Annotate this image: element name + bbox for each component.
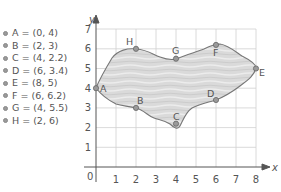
x-tick-labels: 1 2 3 4 5 6 7 8 xyxy=(113,174,259,185)
label-a: A xyxy=(100,83,107,94)
svg-text:3: 3 xyxy=(153,174,159,185)
svg-text:6: 6 xyxy=(85,43,91,54)
svg-text:4: 4 xyxy=(85,83,91,94)
label-f: F xyxy=(213,47,218,58)
y-tick-labels: 1 2 3 4 5 6 7 xyxy=(85,24,91,153)
label-d: D xyxy=(207,88,214,99)
point-h xyxy=(133,46,138,51)
label-g: G xyxy=(172,45,179,56)
svg-text:3: 3 xyxy=(85,102,91,113)
svg-text:7: 7 xyxy=(85,24,91,35)
x-axis-arrow-icon xyxy=(262,164,270,170)
label-e: E xyxy=(259,67,265,78)
svg-text:2: 2 xyxy=(133,174,139,185)
svg-text:7: 7 xyxy=(233,174,239,185)
label-h: H xyxy=(126,36,133,47)
svg-text:5: 5 xyxy=(193,174,199,185)
svg-text:6: 6 xyxy=(213,174,219,185)
point-a xyxy=(93,86,98,91)
label-b: B xyxy=(137,95,144,106)
point-g xyxy=(173,56,178,61)
origin-label: 0 xyxy=(87,171,93,182)
svg-text:4: 4 xyxy=(173,174,179,185)
svg-text:2: 2 xyxy=(85,122,91,133)
svg-text:8: 8 xyxy=(253,174,259,185)
svg-text:5: 5 xyxy=(85,63,91,74)
svg-text:1: 1 xyxy=(85,142,91,153)
svg-text:1: 1 xyxy=(113,174,119,185)
point-e xyxy=(253,66,258,71)
label-c: C xyxy=(173,111,180,122)
point-b xyxy=(133,105,138,110)
coordinate-plot: y x 0 1 2 3 4 5 6 7 8 1 2 3 4 5 6 7 A B … xyxy=(0,0,281,192)
x-axis-label: x xyxy=(271,162,278,173)
